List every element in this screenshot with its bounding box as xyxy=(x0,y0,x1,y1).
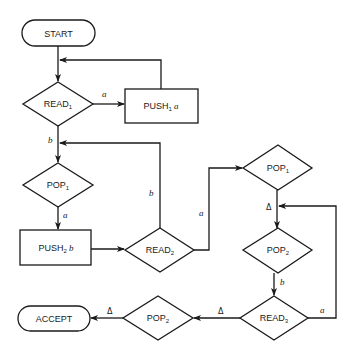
edge-label-a: a xyxy=(320,305,325,315)
edge-label-delta: Δ xyxy=(218,307,224,316)
read3-label: READ3 xyxy=(260,313,289,324)
pop2-right-node: POP2 xyxy=(243,228,312,273)
push1-node: PUSH1a xyxy=(125,89,198,123)
edge-label-delta: Δ xyxy=(107,307,113,316)
edge-label-a: a xyxy=(63,210,68,220)
read1-label: READ1 xyxy=(44,99,73,110)
pop1-left-node: POP1 xyxy=(23,163,93,207)
flowchart: START READ1 a PUSH1a b b POP1 a PUSH2b R… xyxy=(0,0,354,355)
edge-label-a: a xyxy=(199,208,204,218)
accept-node: ACCEPT xyxy=(18,306,90,331)
start-node: START xyxy=(22,20,95,46)
edge-label-delta: Δ xyxy=(266,203,272,212)
start-label: START xyxy=(44,29,73,39)
pop1-right-node: POP1 xyxy=(243,145,312,190)
push2-node: PUSH2b xyxy=(20,230,91,265)
read2-label: READ2 xyxy=(146,245,175,256)
edge-label-b: b xyxy=(149,188,154,198)
edge-label-b: b xyxy=(280,277,285,287)
edge-label-b: b xyxy=(48,135,53,145)
read2-node: READ2 xyxy=(125,228,194,272)
pop2-bottom-node: POP2 xyxy=(123,296,193,340)
read3-node: READ3 xyxy=(240,296,308,340)
accept-label: ACCEPT xyxy=(36,314,73,324)
push1-label: PUSH1a xyxy=(144,101,179,112)
edge-push1-loop xyxy=(60,60,161,89)
read1-node: READ1 xyxy=(23,82,93,126)
edge-label-a: a xyxy=(102,89,107,99)
push2-label: PUSH2b xyxy=(39,243,74,254)
